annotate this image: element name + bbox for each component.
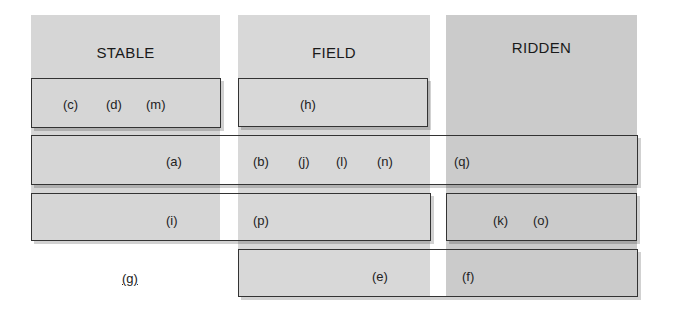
label-i: (i) xyxy=(166,213,178,228)
label-k: (k) xyxy=(493,213,508,228)
label-l: (l) xyxy=(336,154,348,169)
label-j: (j) xyxy=(298,154,310,169)
heading-field: FIELD xyxy=(238,44,430,61)
label-o: (o) xyxy=(533,213,549,228)
box-row-a xyxy=(31,135,638,185)
label-m: (m) xyxy=(146,97,166,112)
label-b: (b) xyxy=(253,154,269,169)
label-f: (f) xyxy=(462,269,474,284)
label-q: (q) xyxy=(454,154,470,169)
box-stable-cdm xyxy=(31,78,221,128)
label-n: (n) xyxy=(377,154,393,169)
box-field-h xyxy=(238,78,428,127)
label-c: (c) xyxy=(63,97,78,112)
label-e: (e) xyxy=(372,269,388,284)
label-a: (a) xyxy=(166,154,182,169)
label-d: (d) xyxy=(106,97,122,112)
label-g: (g) xyxy=(122,271,138,286)
heading-ridden: RIDDEN xyxy=(446,39,637,56)
heading-stable: STABLE xyxy=(31,44,220,61)
box-row-i xyxy=(31,193,431,241)
label-h: (h) xyxy=(300,97,316,112)
box-row-e xyxy=(238,249,638,297)
label-p: (p) xyxy=(253,213,269,228)
